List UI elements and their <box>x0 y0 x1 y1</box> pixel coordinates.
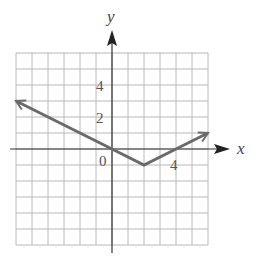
tick-label-y-2: 2 <box>96 110 104 126</box>
tick-label-x-4: 4 <box>170 157 178 173</box>
y-axis-label: y <box>105 7 115 26</box>
tick-label-y-4: 4 <box>96 78 104 94</box>
x-axis-label: x <box>236 139 245 158</box>
coordinate-plane: x y 0 4 2 4 <box>0 0 260 271</box>
origin-label: 0 <box>99 153 107 169</box>
